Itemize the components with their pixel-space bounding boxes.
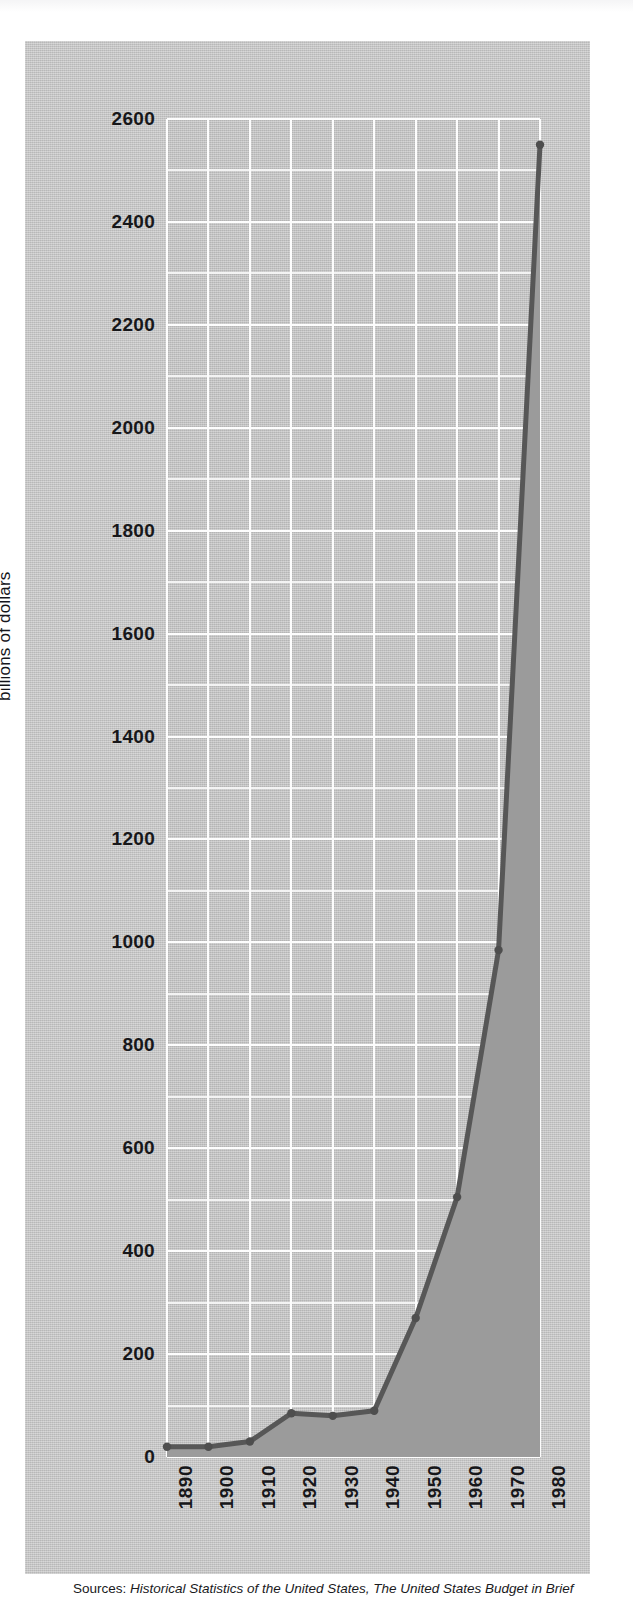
x-tick-1940: 1940 — [382, 1465, 404, 1509]
data-point-1970 — [494, 946, 502, 954]
x-axis-tick-labels: 1890190019101920193019401950196019701980 — [167, 1465, 540, 1545]
y-tick-1800: 1800 — [112, 520, 155, 542]
data-point-1890 — [163, 1443, 171, 1451]
area-fill — [167, 145, 540, 1457]
y-axis-title: billions of dollars — [0, 461, 15, 701]
x-tick-1910: 1910 — [258, 1465, 280, 1509]
y-tick-1000: 1000 — [112, 931, 155, 953]
debt-area-series — [167, 119, 540, 1457]
y-tick-2200: 2200 — [112, 314, 155, 336]
data-point-1920 — [287, 1409, 295, 1417]
data-point-1950 — [411, 1314, 419, 1322]
data-point-1940 — [370, 1406, 378, 1414]
data-point-1900 — [204, 1443, 212, 1451]
y-axis-tick-labels: 0200400600800100012001400160018002000220… — [83, 119, 155, 1457]
data-point-1930 — [329, 1412, 337, 1420]
plot-area — [167, 119, 540, 1457]
y-tick-0: 0 — [144, 1446, 155, 1468]
source-titles: Historical Statistics of the United Stat… — [130, 1581, 573, 1596]
chart-plate: billions of dollars 02004006008001000120… — [25, 41, 590, 1574]
data-point-1960 — [453, 1193, 461, 1201]
x-tick-1980: 1980 — [548, 1465, 570, 1509]
source-note: Sources: Historical Statistics of the Un… — [73, 1581, 574, 1596]
data-point-1980 — [536, 141, 544, 149]
y-tick-400: 400 — [122, 1240, 155, 1262]
x-tick-1960: 1960 — [465, 1465, 487, 1509]
y-tick-1600: 1600 — [112, 623, 155, 645]
x-tick-1970: 1970 — [507, 1465, 529, 1509]
y-tick-600: 600 — [122, 1137, 155, 1159]
y-tick-200: 200 — [122, 1343, 155, 1365]
y-tick-2000: 2000 — [112, 417, 155, 439]
scan-edge-band — [0, 0, 633, 12]
y-tick-2400: 2400 — [112, 211, 155, 233]
x-tick-1890: 1890 — [175, 1465, 197, 1509]
x-tick-1920: 1920 — [299, 1465, 321, 1509]
x-tick-1930: 1930 — [341, 1465, 363, 1509]
data-point-1910 — [246, 1437, 254, 1445]
x-tick-1900: 1900 — [216, 1465, 238, 1509]
source-label: Sources: — [73, 1581, 126, 1596]
y-tick-1200: 1200 — [112, 828, 155, 850]
y-tick-2600: 2600 — [112, 108, 155, 130]
y-tick-1400: 1400 — [112, 726, 155, 748]
y-tick-800: 800 — [122, 1034, 155, 1056]
x-tick-1950: 1950 — [424, 1465, 446, 1509]
